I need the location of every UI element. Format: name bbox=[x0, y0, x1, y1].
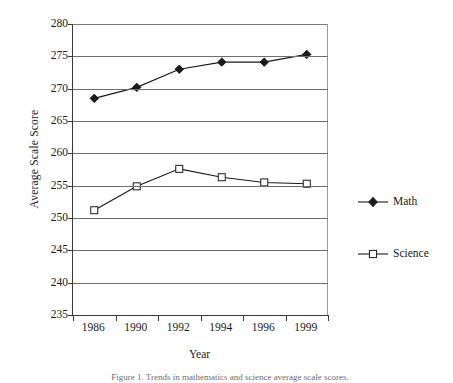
y-tick-label: 270 bbox=[30, 83, 68, 95]
data-point-math bbox=[133, 83, 141, 91]
x-axis-tick bbox=[158, 315, 159, 321]
y-tick-label: 245 bbox=[30, 245, 68, 257]
x-axis-tick bbox=[286, 315, 287, 321]
data-point-science bbox=[91, 207, 98, 214]
y-axis-tick bbox=[68, 218, 73, 219]
y-tick-label: 250 bbox=[30, 212, 68, 224]
legend-label-science: Science bbox=[393, 248, 429, 260]
y-axis-tick bbox=[68, 250, 73, 251]
gridline bbox=[73, 218, 328, 219]
y-axis-tick bbox=[68, 56, 73, 57]
data-point-math bbox=[260, 58, 268, 66]
x-axis-tick bbox=[116, 315, 117, 321]
data-point-math bbox=[303, 50, 311, 58]
data-point-math bbox=[90, 94, 98, 102]
y-axis-tick bbox=[68, 24, 73, 25]
y-axis-tick bbox=[68, 283, 73, 284]
x-tick-label: 1996 bbox=[252, 322, 275, 334]
y-tick-label: 280 bbox=[30, 18, 68, 30]
gridline bbox=[73, 283, 328, 284]
series-line-math bbox=[94, 54, 307, 98]
x-axis-tick bbox=[201, 315, 202, 321]
data-point-math bbox=[218, 58, 226, 66]
legend-entry-science[interactable]: Science bbox=[358, 248, 429, 260]
y-axis-tick bbox=[68, 121, 73, 122]
y-tick-label: 260 bbox=[30, 148, 68, 160]
series-line-science bbox=[94, 169, 307, 210]
y-tick-label: 275 bbox=[30, 51, 68, 63]
legend-label-math: Math bbox=[393, 196, 417, 208]
x-tick-label: 1999 bbox=[294, 322, 317, 334]
legend-entry-math[interactable]: Math bbox=[358, 196, 417, 208]
y-tick-label: 255 bbox=[30, 180, 68, 192]
y-axis-tick bbox=[68, 153, 73, 154]
data-point-science bbox=[176, 165, 183, 172]
x-axis-tick bbox=[243, 315, 244, 321]
y-axis-tick bbox=[68, 89, 73, 90]
x-axis-tick bbox=[328, 315, 329, 321]
y-tick-label: 235 bbox=[30, 309, 68, 321]
x-tick-label: 1990 bbox=[124, 322, 147, 334]
gridline bbox=[73, 121, 328, 122]
gridline bbox=[73, 56, 328, 57]
figure-caption: Figure 1. Trends in mathematics and scie… bbox=[60, 372, 400, 383]
gridline bbox=[73, 89, 328, 90]
y-axis-tick bbox=[68, 186, 73, 187]
data-point-science bbox=[218, 174, 225, 181]
gridline bbox=[73, 250, 328, 251]
series-layer bbox=[73, 24, 328, 315]
x-axis-title: Year bbox=[72, 348, 327, 360]
science-marker-icon bbox=[358, 248, 388, 260]
x-tick-label: 1994 bbox=[209, 322, 232, 334]
x-tick-label: 1992 bbox=[167, 322, 190, 334]
x-axis-tick-labels: 198619901992199419961999 bbox=[72, 322, 327, 338]
x-axis-tick bbox=[73, 315, 74, 321]
math-marker-icon bbox=[358, 196, 388, 208]
x-tick-label: 1986 bbox=[82, 322, 105, 334]
gridline bbox=[73, 186, 328, 187]
gridline bbox=[73, 153, 328, 154]
y-tick-label: 240 bbox=[30, 277, 68, 289]
y-tick-label: 265 bbox=[30, 115, 68, 127]
y-axis-tick-labels: 235240245250255260265270275280 bbox=[30, 24, 68, 315]
plot-area bbox=[72, 24, 328, 316]
data-point-math bbox=[175, 65, 183, 73]
